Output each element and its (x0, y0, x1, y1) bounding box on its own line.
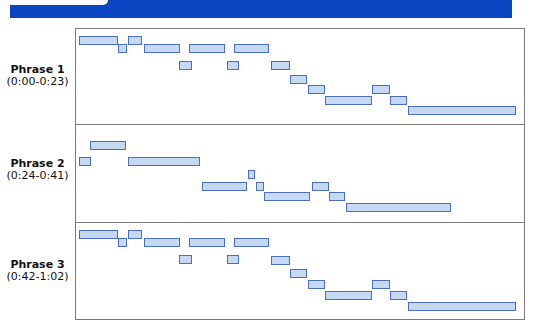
phrase-2-note (79, 157, 91, 166)
phrase-3-note (234, 238, 269, 247)
phrase-3-label: Phrase 3 (0:42-1:02) (0, 259, 75, 283)
phrase-3-note (189, 238, 225, 247)
phrase-1-range: (0:00-0:23) (0, 76, 75, 88)
phrase-1-note (325, 96, 372, 105)
phrase-2-label: Phrase 2 (0:24-0:41) (0, 158, 75, 182)
phrase-3-note (325, 291, 372, 300)
phrase-3-note (118, 238, 127, 247)
phrase-3-note (144, 238, 180, 247)
phrase-1-note (79, 36, 118, 45)
phrase-divider-2-3 (75, 222, 524, 223)
phrase-2-note (202, 182, 247, 191)
phrase-2-note (90, 141, 126, 150)
phrase-1-note (271, 61, 290, 70)
phrase-1-label: Phrase 1 (0:00-0:23) (0, 64, 75, 88)
phrase-3-note (290, 269, 307, 278)
phrase-1-note (227, 61, 239, 70)
header-tab (10, 0, 108, 5)
phrase-3-range: (0:42-1:02) (0, 271, 75, 283)
phrase-2-note (128, 157, 200, 166)
phrase-2-note (346, 203, 451, 212)
phrase-3-note (408, 302, 516, 311)
phrase-3-note (227, 255, 239, 264)
phrase-1-note (234, 44, 269, 53)
phrase-1-note (144, 44, 180, 53)
phrase-1-note (118, 44, 127, 53)
phrase-3-note (372, 280, 390, 289)
phrase-1-note (372, 85, 390, 94)
phrase-2-range: (0:24-0:41) (0, 170, 75, 182)
phrase-2-note (329, 192, 345, 201)
phrase-3-note (271, 256, 290, 265)
phrase-3-note (390, 291, 407, 300)
phrase-1-note (308, 85, 325, 94)
phrase-1-note (290, 75, 307, 84)
phrase-3-note (308, 280, 325, 289)
phrase-1-note (128, 36, 142, 45)
phrase-2-note (264, 192, 310, 201)
phrase-2-note (248, 170, 255, 179)
phrase-1-note (189, 44, 225, 53)
phrase-1-note (390, 96, 407, 105)
phrase-2-note (312, 182, 329, 191)
phrase-3-note (179, 255, 192, 264)
phrase-3-note (128, 230, 142, 239)
phrase-2-note (256, 182, 264, 191)
phrase-1-note (408, 106, 516, 115)
phrase-1-note (179, 61, 192, 70)
phrase-divider-1-2 (75, 124, 524, 125)
phrase-3-note (79, 230, 118, 239)
